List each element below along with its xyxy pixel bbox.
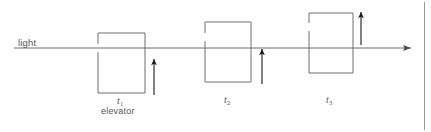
time-label-3-index: 3	[329, 99, 332, 106]
light-ray-label: light	[18, 38, 36, 48]
elevator-box-2	[205, 22, 251, 82]
time-label-2-index: 2	[227, 99, 230, 106]
elevator-box-1	[98, 33, 145, 93]
time-label-2: t2	[224, 95, 230, 105]
elevator-frame-2	[205, 22, 262, 84]
elevator-frame-1	[98, 33, 154, 95]
diagram-canvas	[0, 0, 431, 132]
elevator-caption: elevator	[101, 107, 135, 116]
elevator-frame-3	[309, 12, 361, 73]
elevator-light-diagram: light t1 elevator t2 t3	[0, 0, 431, 132]
elevator-box-3	[309, 13, 353, 73]
time-label-3: t3	[326, 95, 332, 105]
time-label-1: t1	[117, 96, 123, 106]
